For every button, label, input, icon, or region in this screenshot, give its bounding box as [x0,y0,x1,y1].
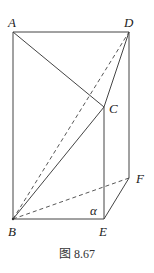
label-B: B [8,224,16,239]
edge-BD-dashed [13,32,129,219]
figure-caption: 图 8.67 [59,247,95,261]
edge-CD [104,32,129,107]
label-A: A [7,15,16,30]
edge-EF [104,178,129,219]
label-F: F [135,171,145,186]
edge-AC [13,32,104,107]
label-E: E [98,224,107,239]
label-alpha: α [90,203,98,218]
point-B-dot [12,218,14,220]
label-D: D [123,15,134,30]
edge-BF-dashed [13,178,129,219]
label-C: C [109,101,118,116]
geometry-diagram: A D C F B E α 图 8.67 [0,0,154,273]
